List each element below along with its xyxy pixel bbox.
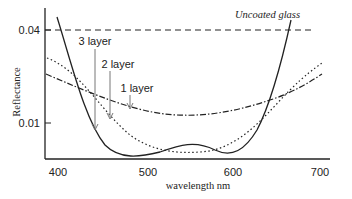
y-tick-label-001: 0.01 xyxy=(19,117,40,129)
uncoated-glass-label: Uncoated glass xyxy=(235,9,300,20)
y-axis-title: Reflectance xyxy=(11,67,22,117)
x-tick-label-400: 400 xyxy=(49,166,67,178)
series-1-layer xyxy=(46,74,322,115)
label-1-layer: 1 layer xyxy=(120,82,153,94)
x-tick-label-700: 700 xyxy=(311,166,329,178)
x-tick-label-600: 600 xyxy=(224,166,242,178)
label-3-layer: 3 layer xyxy=(78,35,111,47)
x-tick-label-500: 500 xyxy=(139,166,157,178)
series-2-layer xyxy=(47,58,322,152)
x-axis-title: wavelength nm xyxy=(166,180,230,191)
y-tick-label-004: 0.04 xyxy=(19,24,40,36)
chart-canvas: 0.04 0.01 400 500 600 700 wavelength nm … xyxy=(0,0,352,199)
label-2-layer: 2 layer xyxy=(101,58,134,70)
reflectance-chart: 0.04 0.01 400 500 600 700 wavelength nm … xyxy=(0,0,352,199)
